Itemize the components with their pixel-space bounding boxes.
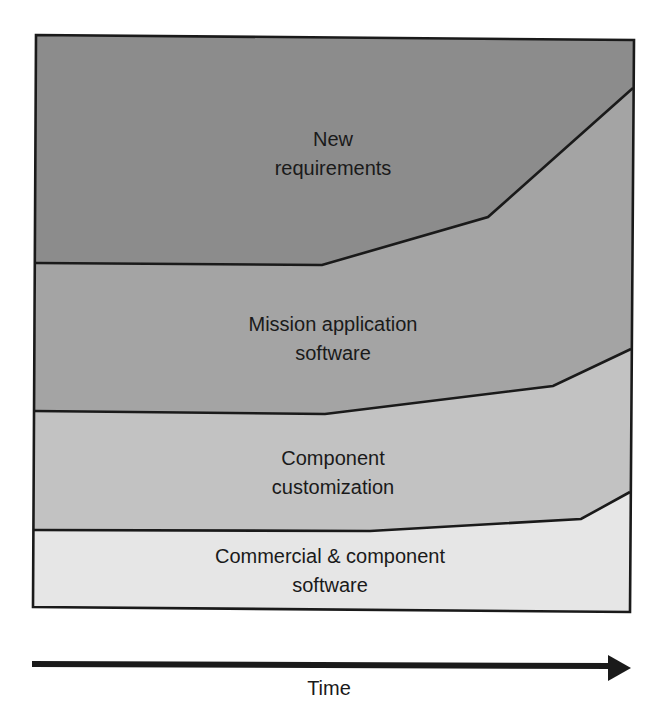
label-component-customization-line2: customization — [272, 476, 394, 498]
label-commercial-component-line2: software — [292, 574, 368, 596]
label-mission-application-line2: software — [295, 342, 371, 364]
label-new-requirements-line1: New — [313, 128, 354, 150]
label-component-customization-line1: Component — [281, 447, 385, 469]
label-new-requirements-line2: requirements — [275, 157, 392, 179]
evolution-diagram: New requirements Mission application sof… — [0, 0, 664, 714]
time-arrow-shaft — [32, 664, 612, 666]
label-mission-application-line1: Mission application — [249, 313, 418, 335]
time-axis-label: Time — [307, 677, 351, 699]
label-commercial-component-line1: Commercial & component — [215, 545, 446, 567]
arrow-right-icon — [608, 655, 631, 681]
time-axis: Time — [32, 655, 631, 699]
